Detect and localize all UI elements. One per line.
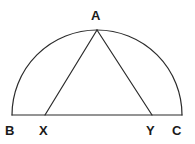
triangle-side-ay — [97, 30, 152, 115]
vertex-label-y: Y — [146, 124, 155, 137]
vertex-label-b: B — [5, 124, 14, 137]
vertex-label-c: C — [172, 124, 181, 137]
geometry-figure: A B X Y C — [0, 0, 195, 144]
semicircle-arc — [12, 30, 182, 115]
vertex-label-x: X — [39, 124, 48, 137]
vertex-label-a: A — [91, 9, 100, 22]
